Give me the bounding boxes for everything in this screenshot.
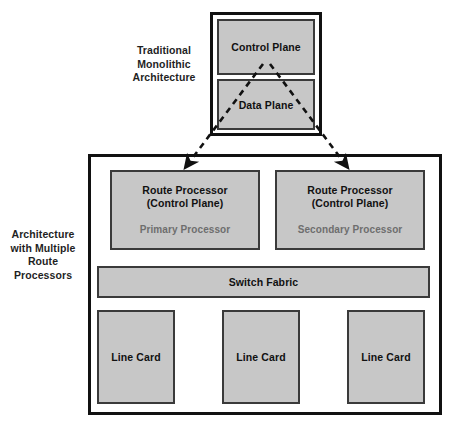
line-card-label-3: Line Card: [361, 351, 410, 363]
line-card-label-1: Line Card: [111, 351, 160, 363]
switch-fabric-box: Switch Fabric: [97, 266, 430, 298]
traditional-architecture-caption: Traditional Monolithic Architecture: [112, 44, 216, 85]
route-processor-secondary-title-line-1: Route Processor: [307, 184, 393, 197]
route-processor-secondary-title-line-2: (Control Plane): [312, 197, 389, 210]
route-processor-primary-box: Route Processor (Control Plane) Primary …: [110, 170, 260, 250]
line-card-box-1: Line Card: [97, 310, 175, 404]
line-card-label-2: Line Card: [236, 351, 285, 363]
multi-caption-line-2: with Multiple: [2, 242, 84, 256]
multi-caption-line-1: Architecture: [2, 228, 84, 242]
traditional-caption-line-2: Monolithic: [112, 58, 216, 72]
control-plane-box: Control Plane: [217, 19, 315, 75]
route-processor-secondary-role: Secondary Processor: [298, 223, 403, 236]
traditional-caption-line-1: Traditional: [112, 44, 216, 58]
traditional-caption-line-3: Architecture: [112, 71, 216, 85]
line-card-box-2: Line Card: [222, 310, 300, 404]
route-processor-primary-role: Primary Processor: [140, 223, 231, 236]
control-plane-label: Control Plane: [231, 41, 301, 53]
switch-fabric-label: Switch Fabric: [229, 276, 299, 288]
line-card-box-3: Line Card: [347, 310, 425, 404]
multi-architecture-caption: Architecture with Multiple Route Process…: [2, 228, 84, 282]
data-plane-box: Data Plane: [217, 79, 315, 130]
diagram-canvas: Control Plane Data Plane Route Processor…: [0, 0, 454, 430]
route-processor-secondary-box: Route Processor (Control Plane) Secondar…: [275, 170, 425, 250]
route-processor-primary-title-line-1: Route Processor: [142, 184, 228, 197]
route-processor-primary-title-line-2: (Control Plane): [147, 197, 224, 210]
multi-caption-line-3: Route: [2, 255, 84, 269]
multi-caption-line-4: Processors: [2, 269, 84, 283]
data-plane-label: Data Plane: [239, 99, 294, 111]
